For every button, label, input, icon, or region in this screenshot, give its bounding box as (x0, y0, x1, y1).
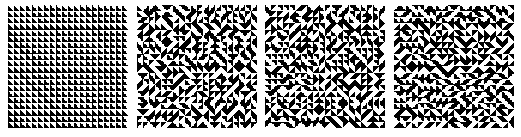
panel-uniform (8, 5, 128, 128)
panel-random-2 (265, 5, 385, 128)
tile (251, 122, 257, 128)
tile (508, 122, 514, 128)
tile (122, 122, 128, 128)
panel-random-3 (394, 5, 514, 128)
tile (379, 122, 385, 128)
panel-random-1 (137, 5, 257, 128)
